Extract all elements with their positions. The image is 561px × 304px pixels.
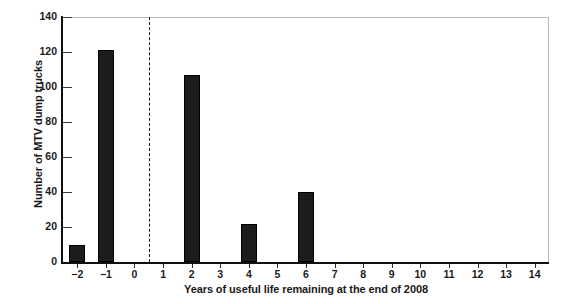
y-tick-label: 140 bbox=[39, 10, 57, 22]
y-tick-mark bbox=[63, 192, 72, 193]
x-tick-label: 14 bbox=[521, 268, 549, 280]
x-tick-label: 9 bbox=[378, 268, 406, 280]
x-tick-label: 11 bbox=[435, 268, 463, 280]
x-tick-label: 1 bbox=[149, 268, 177, 280]
x-tick-label: 2 bbox=[178, 268, 206, 280]
x-tick-label: 0 bbox=[120, 268, 148, 280]
x-tick-label: 10 bbox=[406, 268, 434, 280]
y-tick-label: 120 bbox=[39, 45, 57, 57]
bar-chart-figure: Number of MTV dump trucks 02040608010012… bbox=[0, 0, 561, 304]
x-tick-label: 6 bbox=[292, 268, 320, 280]
x-tick-label: 12 bbox=[464, 268, 492, 280]
y-tick-label: 20 bbox=[45, 220, 57, 232]
bar bbox=[298, 192, 314, 262]
y-tick-label: 60 bbox=[45, 150, 57, 162]
plot-area: 020406080100120140 −2−101234567891011121… bbox=[63, 17, 549, 262]
y-tick-label: 40 bbox=[45, 185, 57, 197]
x-tick-label: 4 bbox=[235, 268, 263, 280]
y-tick-mark bbox=[63, 262, 72, 263]
x-tick-label: 7 bbox=[321, 268, 349, 280]
bar bbox=[98, 50, 114, 262]
bar bbox=[69, 245, 85, 263]
bar bbox=[241, 224, 257, 263]
y-tick-label: 0 bbox=[51, 255, 57, 267]
y-tick-mark bbox=[63, 122, 72, 123]
x-tick-label: 8 bbox=[349, 268, 377, 280]
y-tick-mark bbox=[63, 227, 72, 228]
divider-line-icon bbox=[149, 17, 150, 262]
x-tick-label: −2 bbox=[63, 268, 91, 280]
x-tick-label: 5 bbox=[263, 268, 291, 280]
plot-frame-right bbox=[548, 17, 549, 262]
y-axis-line bbox=[61, 16, 63, 263]
plot-frame-top bbox=[63, 17, 549, 18]
y-tick-mark bbox=[63, 17, 72, 18]
x-axis-title: Years of useful life remaining at the en… bbox=[63, 283, 549, 295]
x-tick-label: −1 bbox=[92, 268, 120, 280]
x-tick-label: 3 bbox=[206, 268, 234, 280]
y-tick-mark bbox=[63, 87, 72, 88]
y-tick-label: 80 bbox=[45, 115, 57, 127]
x-tick-label: 13 bbox=[492, 268, 520, 280]
y-tick-mark bbox=[63, 157, 72, 158]
bar bbox=[184, 75, 200, 262]
y-tick-mark bbox=[63, 52, 72, 53]
y-tick-label: 100 bbox=[39, 80, 57, 92]
y-axis-title: Number of MTV dump trucks bbox=[32, 24, 44, 244]
